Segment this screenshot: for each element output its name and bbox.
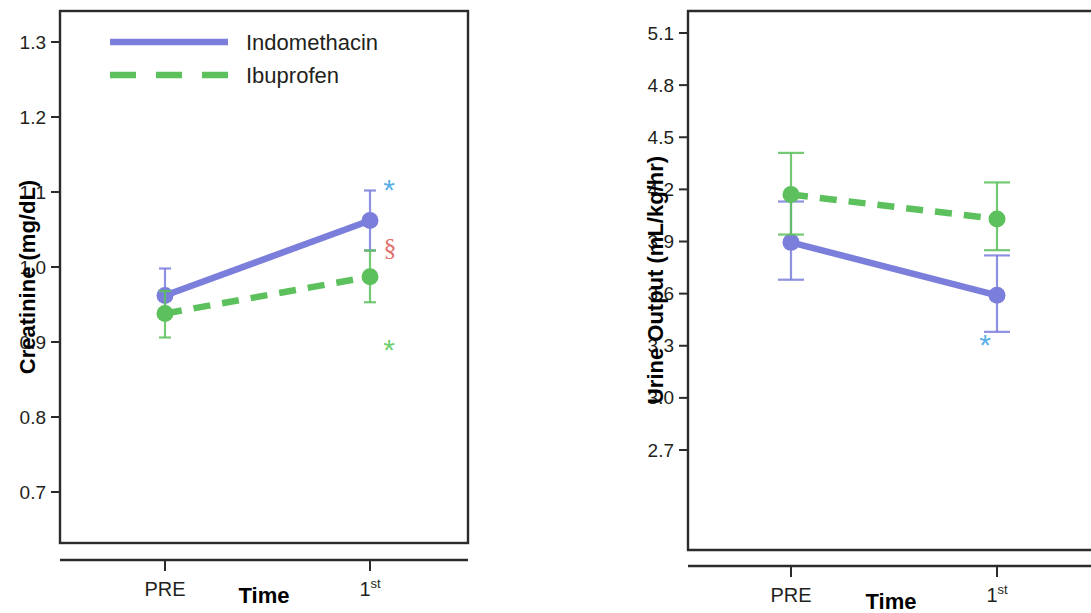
data-point-marker	[783, 186, 800, 203]
series-line-ibuprofen	[791, 195, 997, 219]
chart-panel-urine-output: 2.73.03.33.63.94.24.54.85.1 PRE1st * Uri…	[591, 0, 1091, 613]
y-axis-title-creatinine: Creatinine (mg/dL)	[15, 180, 40, 374]
annotation-marker: §	[384, 233, 397, 262]
y-tick-label: 0.8	[20, 407, 46, 428]
legend-creatinine: IndomethacinIbuprofen	[110, 30, 378, 88]
data-layer-creatinine	[157, 191, 379, 338]
urine-output-svg: 2.73.03.33.63.94.24.54.85.1 PRE1st * Uri…	[591, 0, 1091, 613]
x-axis-title-creatinine: Time	[239, 583, 290, 608]
plot-frame-urine-output	[688, 11, 1091, 550]
data-point-marker	[157, 305, 174, 322]
x-tick-label: PRE	[770, 584, 811, 606]
annotation-marker: *	[383, 173, 395, 206]
legend-label-indomethacin: Indomethacin	[246, 30, 378, 55]
series-line-indomethacin	[791, 242, 997, 295]
data-point-marker	[989, 287, 1006, 304]
x-tick-label: 1st	[986, 582, 1008, 606]
y-tick-label: 4.8	[648, 75, 674, 96]
x-axis-title-urine-output: Time	[866, 589, 917, 613]
creatinine-svg: 0.70.80.91.01.11.21.3 PRE1st Indomethaci…	[0, 0, 500, 613]
x-tick-label: PRE	[144, 578, 185, 600]
annotations-urine-output: *	[979, 328, 991, 361]
y-axis-title-urine-output: Urine Output (mL/kg/hr)	[643, 156, 668, 404]
data-point-marker	[783, 234, 800, 251]
legend-label-ibuprofen: Ibuprofen	[246, 63, 339, 88]
y-tick-label: 5.1	[648, 23, 674, 44]
data-point-marker	[362, 268, 379, 285]
figure-container: 0.70.80.91.01.11.21.3 PRE1st Indomethaci…	[0, 0, 1091, 613]
annotation-marker: *	[979, 328, 991, 361]
data-point-marker	[989, 210, 1006, 227]
y-tick-label: 0.7	[20, 482, 46, 503]
data-point-marker	[362, 212, 379, 229]
chart-panel-creatinine: 0.70.80.91.01.11.21.3 PRE1st Indomethaci…	[0, 0, 500, 613]
y-tick-label: 1.3	[20, 32, 46, 53]
data-layer-urine-output	[778, 153, 1010, 332]
annotations-creatinine: *§*	[383, 173, 396, 366]
annotation-marker: *	[383, 333, 395, 366]
plot-frame-creatinine	[60, 11, 468, 543]
y-tick-label: 2.7	[648, 440, 674, 461]
y-tick-label: 4.5	[648, 127, 674, 148]
y-tick-label: 1.2	[20, 107, 46, 128]
x-tick-label: 1st	[359, 576, 381, 600]
